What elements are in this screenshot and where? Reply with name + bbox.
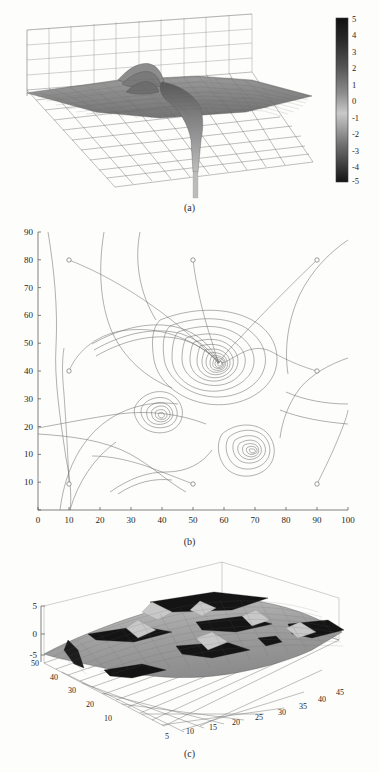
y-tick-60: 50 [24, 338, 34, 348]
x-tick-30: 30 [127, 515, 137, 525]
colorbar-tick-1: 1 [352, 80, 356, 90]
x-tick-0: 0 [36, 515, 41, 525]
start-marker-10-50 [67, 369, 71, 373]
x-tick-40: 40 [158, 515, 168, 525]
panel-b-x-tick-labels: 0 10 20 30 40 50 60 70 80 90 100 [36, 515, 356, 525]
trajectory-from-10-90 [69, 260, 218, 363]
colorbar-tick-neg3: -3 [352, 146, 359, 156]
x-tick-80: 80 [282, 515, 292, 525]
y-tick-80: 70 [24, 283, 34, 293]
panel-c-x-tick-labels: 5 10 15 20 25 30 35 40 45 [165, 688, 344, 741]
x-tick-35: 35 [299, 702, 307, 711]
panel-c-y-tick-labels: 50 40 30 20 10 [31, 659, 112, 723]
figure-root: 5 4 3 2 1 0 -1 -2 -3 -4 -5 (a) [0, 0, 379, 772]
start-marker-50-90 [191, 258, 195, 262]
x-tick-40: 40 [318, 695, 326, 704]
panel-b-y-tick-labels: 90 80 70 60 50 40 30 20 10 10 [24, 228, 34, 487]
caption-a: (a) [0, 202, 379, 213]
y-tick-30: 20 [24, 422, 34, 432]
panel-c-surface [44, 592, 344, 678]
x-tick-15: 15 [209, 723, 217, 732]
x-tick-45: 45 [336, 688, 344, 697]
panel-a-colorbar: 5 4 3 2 1 0 -1 -2 -3 -4 -5 [336, 14, 360, 187]
y-tick-20: 20 [86, 700, 94, 709]
panel-b-y-ticks [38, 232, 41, 510]
panel-c-z-tick-labels: 5 0 -5 [30, 601, 38, 660]
panel-b-x-ticks [38, 507, 348, 510]
y-tick-40: 40 [50, 673, 58, 682]
colorbar-tick-neg4: -4 [352, 162, 360, 172]
z-tick-5: 5 [33, 601, 38, 611]
y-tick-20: 10 [24, 449, 34, 459]
colorbar-tick-2: 2 [352, 63, 356, 73]
colorbar-tick-5: 5 [352, 14, 356, 24]
y-tick-50: 50 [31, 659, 39, 668]
colorbar-tick-0: 0 [352, 96, 356, 106]
start-marker-10-90 [67, 258, 71, 262]
y-tick-10: 10 [104, 714, 112, 723]
x-tick-20: 20 [96, 515, 106, 525]
x-tick-70: 70 [251, 515, 261, 525]
x-tick-25: 25 [255, 713, 263, 722]
start-marker-10-10 [67, 482, 71, 486]
panel-b-contour-plot: 90 80 70 60 50 40 30 20 10 10 0 10 20 30… [0, 228, 379, 558]
y-tick-100: 90 [24, 228, 34, 237]
colorbar-tick-4: 4 [352, 30, 357, 40]
panel-b-axes [38, 232, 348, 510]
panel-b-contours [38, 232, 348, 510]
x-tick-30: 30 [278, 708, 286, 717]
x-tick-5: 5 [165, 732, 169, 741]
caption-c: (c) [0, 748, 379, 759]
colorbar-tick-neg2: -2 [352, 129, 359, 139]
colorbar-tick-3: 3 [352, 47, 356, 57]
panel-a-surface-plot: 5 4 3 2 1 0 -1 -2 -3 -4 -5 (a) [0, 0, 379, 228]
z-tick-0: 0 [33, 629, 38, 639]
x-tick-10: 10 [186, 727, 194, 736]
colorbar-tick-neg1: -1 [352, 113, 359, 123]
y-tick-90: 80 [24, 255, 34, 265]
x-tick-20: 20 [232, 718, 240, 727]
y-tick-50: 40 [24, 366, 34, 376]
start-marker-90-90 [315, 258, 319, 262]
caption-b: (b) [0, 536, 379, 547]
colorbar-tick-labels: 5 4 3 2 1 0 -1 -2 -3 -4 -5 [352, 14, 360, 187]
x-tick-10: 10 [65, 515, 75, 525]
x-tick-60: 60 [220, 515, 230, 525]
panel-b-start-markers [67, 258, 319, 486]
panel-a-svg: 5 4 3 2 1 0 -1 -2 -3 -4 -5 [0, 0, 379, 228]
trajectory-from-50-10 [92, 456, 193, 484]
y-tick-40: 30 [24, 394, 34, 404]
x-tick-50: 50 [189, 515, 199, 525]
x-tick-90: 90 [313, 515, 323, 525]
colorbar-tick-neg5: -5 [352, 176, 359, 186]
start-marker-50-10 [191, 482, 195, 486]
trajectory-from-10-10 [63, 348, 70, 484]
y-tick-10: 10 [24, 477, 34, 487]
trajectory-from-90-90 [219, 260, 317, 363]
x-tick-100: 100 [341, 515, 355, 525]
start-marker-90-10 [315, 482, 319, 486]
y-tick-70: 60 [24, 310, 34, 320]
panel-c-surface-plot: 5 0 -5 [0, 558, 379, 772]
panel-b-svg: 90 80 70 60 50 40 30 20 10 10 0 10 20 30… [0, 228, 379, 558]
y-tick-30: 30 [68, 686, 76, 695]
start-marker-90-50 [315, 369, 319, 373]
panel-c-svg: 5 0 -5 [0, 558, 379, 772]
